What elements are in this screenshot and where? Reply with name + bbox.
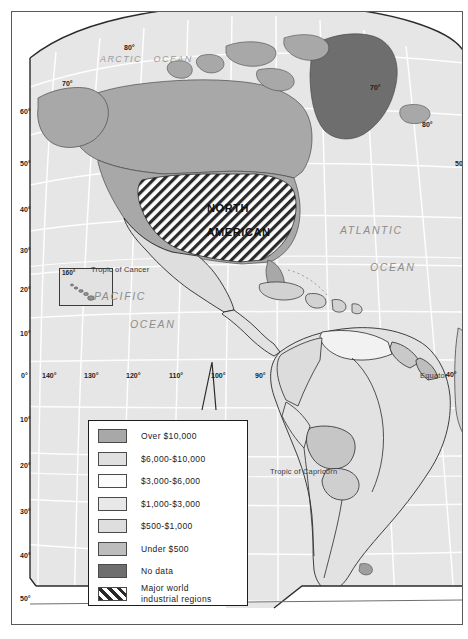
legend-rows: Over $10,000$6,000-$10,000$3,000-$6,000$… [89, 425, 247, 605]
legend-row: $500-$1,000 [89, 515, 247, 538]
legend-swatch [98, 474, 127, 488]
legend-swatch [98, 429, 127, 443]
map-legend: Over $10,000$6,000-$10,000$3,000-$6,000$… [88, 420, 248, 606]
legend-label: $1,000-$3,000 [141, 499, 200, 510]
legend-swatch [98, 587, 127, 601]
legend-label: Under $500 [141, 544, 189, 555]
legend-row: Over $10,000 [89, 425, 247, 448]
legend-swatch [98, 542, 127, 556]
map-page: 160° ARCTIC OCEANATLANTICOCEANPACIFICOCE… [0, 0, 468, 639]
legend-row: $6,000-$10,000 [89, 448, 247, 471]
legend-row: No data [89, 560, 247, 583]
land-iceland [400, 104, 430, 123]
legend-label: $6,000-$10,000 [141, 454, 205, 465]
legend-row: Under $500 [89, 538, 247, 561]
legend-label: Over $10,000 [141, 431, 197, 442]
legend-swatch [98, 452, 127, 466]
land-falklands [359, 563, 372, 574]
legend-swatch [98, 497, 127, 511]
inset-longitude-label: 160° [62, 269, 75, 276]
legend-label: Major world industrial regions [141, 583, 212, 604]
hawaii-inset: 160° [59, 268, 113, 306]
map-frame: 160° ARCTIC OCEANATLANTICOCEANPACIFICOCE… [11, 11, 463, 625]
legend-row: Major world industrial regions [89, 583, 247, 606]
legend-label: $500-$1,000 [141, 521, 193, 532]
legend-row: $1,000-$3,000 [89, 493, 247, 516]
legend-label: No data [141, 566, 173, 577]
legend-row: $3,000-$6,000 [89, 470, 247, 493]
legend-swatch [98, 564, 127, 578]
legend-swatch [98, 519, 127, 533]
legend-label: $3,000-$6,000 [141, 476, 200, 487]
